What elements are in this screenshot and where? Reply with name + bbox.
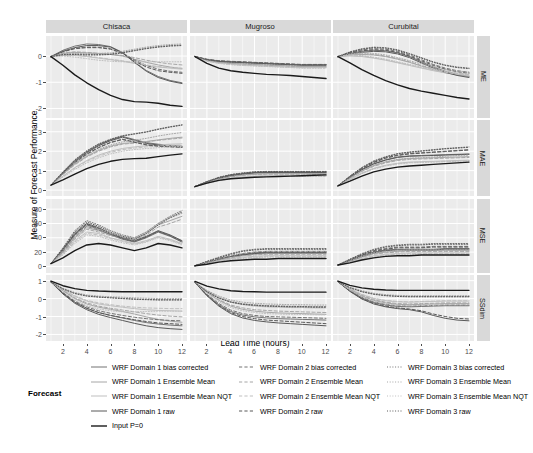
- panel-ssdim-mugroso: [190, 275, 331, 341]
- x-tick-label: 4: [228, 348, 232, 355]
- legend-item-label: WRF Domain 2 Ensemble Mean NQT: [260, 392, 380, 401]
- y-tick-label: 3: [24, 128, 42, 135]
- x-tick-mark: [158, 344, 159, 347]
- legend-item-label: WRF Domain 1 Ensemble Mean NQT: [112, 392, 232, 401]
- legend-item[interactable]: WRF Domain 2 raw: [238, 404, 386, 419]
- x-tick-label: 4: [85, 348, 89, 355]
- y-tick-label: 40: [24, 234, 42, 241]
- legend-item-label: WRF Domain 2 Ensemble Mean: [260, 377, 363, 386]
- legend-key-swatch: [90, 362, 108, 372]
- legend-column-1: WRF Domain 1 bias correctedWRF Domain 1 …: [90, 360, 238, 433]
- legend-item-label: WRF Domain 3 Ensemble Mean NQT: [408, 392, 528, 401]
- legend-item-label: WRF Domain 3 raw: [408, 407, 471, 416]
- panel-mae-chisaca: [46, 120, 187, 196]
- x-tick-mark: [254, 344, 255, 347]
- y-tick-label: -1: [24, 313, 42, 320]
- series-line: [195, 56, 326, 64]
- legend-item[interactable]: WRF Domain 3 raw: [386, 404, 533, 419]
- series-line: [338, 47, 469, 68]
- facet-row-mae: MAE: [46, 120, 492, 196]
- y-tick-label: -2: [24, 331, 42, 338]
- legend-key-swatch: [90, 377, 108, 387]
- x-tick-label: 12: [178, 348, 186, 355]
- panel-me-mugroso: [190, 36, 331, 118]
- legend-key-swatch: [386, 362, 404, 372]
- series-line: [51, 281, 182, 292]
- x-tick-label: 12: [465, 348, 473, 355]
- legend-item-label: WRF Domain 2 bias corrected: [260, 363, 356, 372]
- panel-mse-curubital: [333, 199, 474, 273]
- legend-item[interactable]: WRF Domain 3 bias corrected: [386, 360, 533, 375]
- facet-row-me: ME: [46, 36, 492, 118]
- facet-grid: ChisacaMugrosoCurubital0-1-2ME3210MAE806…: [46, 20, 492, 344]
- x-tick-label: 10: [441, 348, 449, 355]
- y-tick-label: -2: [24, 104, 42, 111]
- legend-item[interactable]: WRF Domain 2 Ensemble Mean: [238, 375, 386, 390]
- panel-me-chisaca: [46, 36, 187, 118]
- series-line: [51, 282, 182, 324]
- panel-ssdim-chisaca: [46, 275, 187, 341]
- panel-mse-mugroso: [190, 199, 331, 273]
- legend-key-swatch: [90, 391, 108, 401]
- facet-strip-row-label: MSE: [479, 228, 488, 244]
- series-line: [338, 56, 469, 98]
- x-tick-mark: [469, 344, 470, 347]
- series-line: [51, 55, 182, 69]
- legend-key-swatch: [386, 377, 404, 387]
- panel-me-curubital: [333, 36, 474, 118]
- legend-key-swatch: [238, 391, 256, 401]
- x-tick-mark: [182, 344, 183, 347]
- x-tick-label: 6: [396, 348, 400, 355]
- legend-item[interactable]: WRF Domain 3 Ensemble Mean NQT: [386, 389, 533, 404]
- legend-item[interactable]: WRF Domain 2 Ensemble Mean NQT: [238, 389, 386, 404]
- x-tick-label: 4: [372, 348, 376, 355]
- facet-strip-row-mse: MSE: [477, 199, 490, 273]
- series-line: [51, 140, 182, 186]
- facet-strip-row-mae: MAE: [477, 120, 490, 196]
- x-tick-mark: [206, 344, 207, 347]
- legend-key-swatch: [386, 391, 404, 401]
- panel-mae-mugroso: [190, 120, 331, 196]
- legend-key-swatch: [90, 421, 108, 431]
- legend-item-label: WRF Domain 3 Ensemble Mean: [408, 377, 511, 386]
- y-tick-label: 1: [24, 277, 42, 284]
- facet-strip-row-label: ME: [479, 71, 488, 82]
- legend-key-swatch: [90, 406, 108, 416]
- y-tick-label: 1: [24, 167, 42, 174]
- series-line: [51, 133, 182, 186]
- series-line: [51, 56, 182, 106]
- legend-item[interactable]: WRF Domain 3 Ensemble Mean: [386, 375, 533, 390]
- x-tick-mark: [87, 344, 88, 347]
- legend-item[interactable]: WRF Domain 1 Ensemble Mean: [90, 375, 238, 390]
- legend-item[interactable]: Input P=0: [90, 418, 238, 433]
- legend-item[interactable]: WRF Domain 1 Ensemble Mean NQT: [90, 389, 238, 404]
- x-tick-mark: [350, 344, 351, 347]
- legend-item[interactable]: WRF Domain 2 bias corrected: [238, 360, 386, 375]
- series-line: [195, 281, 326, 292]
- legend-item-label: WRF Domain 1 Ensemble Mean: [112, 377, 215, 386]
- y-tick-label: 80: [24, 205, 42, 212]
- legend-item[interactable]: WRF Domain 1 raw: [90, 404, 238, 419]
- facet-strip-column-3: Curubital: [333, 20, 474, 33]
- legend-item[interactable]: WRF Domain 1 bias corrected: [90, 360, 238, 375]
- x-tick-label: 8: [419, 348, 423, 355]
- x-tick-label: 2: [348, 348, 352, 355]
- series-line: [51, 243, 182, 263]
- y-tick-label: 20: [24, 248, 42, 255]
- x-tick-label: 6: [252, 348, 256, 355]
- panel-ssdim-curubital: [333, 275, 474, 341]
- legend-item-label: WRF Domain 3 bias corrected: [408, 363, 504, 372]
- x-tick-mark: [278, 344, 279, 347]
- facet-strip-column-1: Chisaca: [46, 20, 187, 33]
- facet-row-mse: MSE: [46, 199, 492, 273]
- x-tick-mark: [398, 344, 399, 347]
- x-tick-mark: [230, 344, 231, 347]
- x-tick-label: 10: [154, 348, 162, 355]
- x-tick-label: 2: [204, 348, 208, 355]
- y-tick-label: 2: [24, 148, 42, 155]
- legend-item-label: WRF Domain 1 bias corrected: [112, 363, 208, 372]
- y-tick-label: 0: [24, 295, 42, 302]
- series-line: [338, 281, 469, 290]
- y-tick-label: 0: [24, 262, 42, 269]
